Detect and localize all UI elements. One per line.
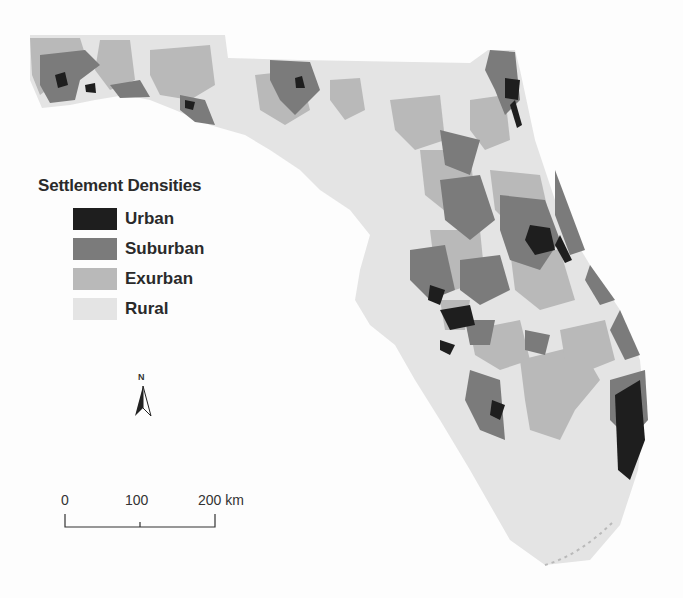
swatch-suburban (73, 238, 117, 260)
legend-label: Suburban (125, 239, 204, 259)
scale-tick-0: 0 (61, 492, 69, 508)
legend-item-urban: Urban (73, 204, 204, 234)
swatch-urban (73, 208, 117, 230)
legend-label: Exurban (125, 269, 193, 289)
legend-label: Urban (125, 209, 174, 229)
legend-item-exurban: Exurban (73, 264, 204, 294)
legend-title: Settlement Densities (38, 176, 204, 196)
swatch-exurban (73, 268, 117, 290)
legend-item-rural: Rural (73, 294, 204, 324)
scale-tick-200: 200 km (198, 492, 244, 508)
legend-label: Rural (125, 299, 168, 319)
legend-item-suburban: Suburban (73, 234, 204, 264)
swatch-rural (73, 298, 117, 320)
scale-line (55, 512, 255, 532)
scale-tick-100: 100 (125, 492, 148, 508)
legend: Settlement Densities Urban Suburban Exur… (38, 176, 204, 324)
north-arrow-icon (130, 370, 156, 420)
scale-bar: 0 100 200 km (55, 492, 255, 532)
